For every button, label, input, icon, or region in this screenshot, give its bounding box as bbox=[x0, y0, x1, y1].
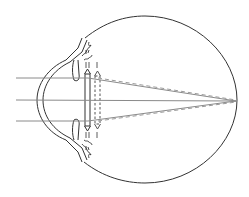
ray-top-dashed bbox=[98, 78, 236, 100]
ray-top-refracted bbox=[88, 78, 236, 101]
zonules-lower bbox=[86, 132, 97, 138]
zonules-upper bbox=[86, 62, 97, 68]
iris-lower bbox=[73, 119, 80, 140]
upper-sclera bbox=[66, 38, 87, 62]
eye-diagram-svg bbox=[0, 0, 249, 197]
eyeball-outline bbox=[84, 16, 237, 183]
lens-solid-arrow-top bbox=[85, 69, 91, 74]
lower-sclera bbox=[66, 138, 87, 162]
ciliary-body-lower bbox=[82, 140, 92, 158]
ray-middle bbox=[16, 100, 236, 101]
ciliary-body-upper bbox=[82, 42, 92, 60]
lens-dashed-arrow-top bbox=[95, 71, 101, 76]
ray-bottom-dashed bbox=[98, 102, 236, 121]
ray-bottom-refracted bbox=[88, 101, 236, 121]
lens-solid-arrow-bottom bbox=[85, 126, 91, 131]
lens-dashed-arrow-bottom bbox=[95, 124, 101, 129]
eye-diagram bbox=[0, 0, 249, 197]
